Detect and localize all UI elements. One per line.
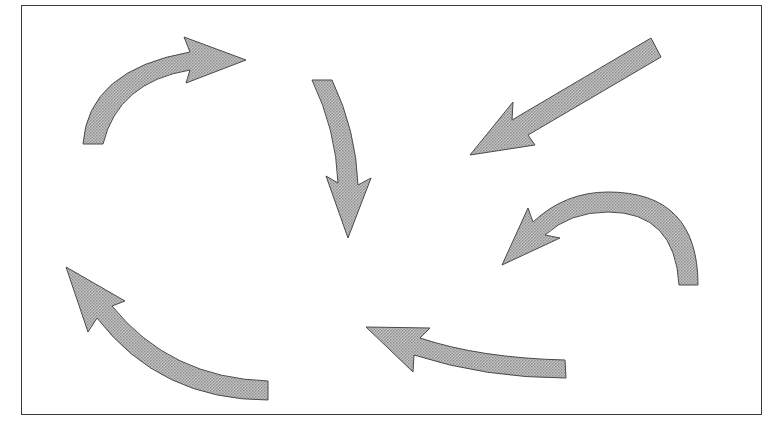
arc-left-arrow-icon <box>502 192 698 285</box>
curved-left-arrow-icon <box>366 327 566 378</box>
curved-right-arrow-icon <box>83 37 246 144</box>
curved-up-left-arrow-icon <box>66 267 268 400</box>
curved-down-arrow-icon <box>312 80 371 238</box>
down-left-arrow-icon <box>470 38 661 155</box>
arrows-diagram <box>0 0 771 424</box>
